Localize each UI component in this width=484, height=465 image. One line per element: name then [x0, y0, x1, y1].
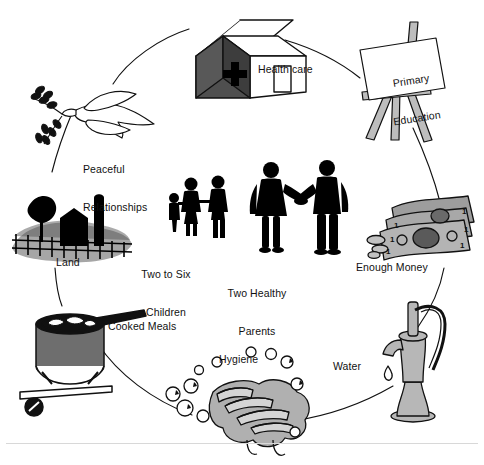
label-peaceful-relationships: Peaceful Relationships: [83, 138, 147, 238]
svg-text:1: 1: [394, 221, 399, 230]
children-line-2: Children: [126, 306, 206, 319]
diagram-canvas: Primary Education 11 11 11: [0, 0, 484, 465]
page-divider-line: [6, 443, 478, 444]
label-water: Water: [333, 360, 361, 373]
svg-text:1: 1: [464, 225, 469, 234]
svg-text:1: 1: [386, 247, 391, 256]
svg-text:1: 1: [460, 241, 465, 250]
peaceful-line-2: Relationships: [83, 201, 147, 214]
education-line-2: Education: [380, 106, 453, 130]
label-land: Land: [56, 256, 80, 269]
parents-line-2: Parents: [212, 325, 302, 338]
water-pump-icon: [375, 296, 465, 426]
banknotes-icon: 11 11 11: [368, 192, 482, 272]
label-health-care: Health care: [258, 63, 313, 76]
svg-text:1: 1: [390, 235, 395, 244]
children-line-1: Two to Six: [126, 268, 206, 281]
primary-education-board-text: Primary Education: [371, 44, 458, 154]
peaceful-line-1: Peaceful: [83, 163, 147, 176]
svg-text:1: 1: [462, 207, 467, 216]
parents-line-1: Two Healthy: [212, 287, 302, 300]
label-two-to-six-children: Two to Six Children: [126, 243, 206, 343]
parents-silhouettes-icon: [245, 158, 355, 268]
education-line-1: Primary: [375, 69, 448, 93]
olive-branch: [30, 85, 62, 146]
label-enough-money: Enough Money: [356, 261, 428, 274]
label-two-healthy-parents: Two Healthy Parents: [212, 262, 302, 362]
